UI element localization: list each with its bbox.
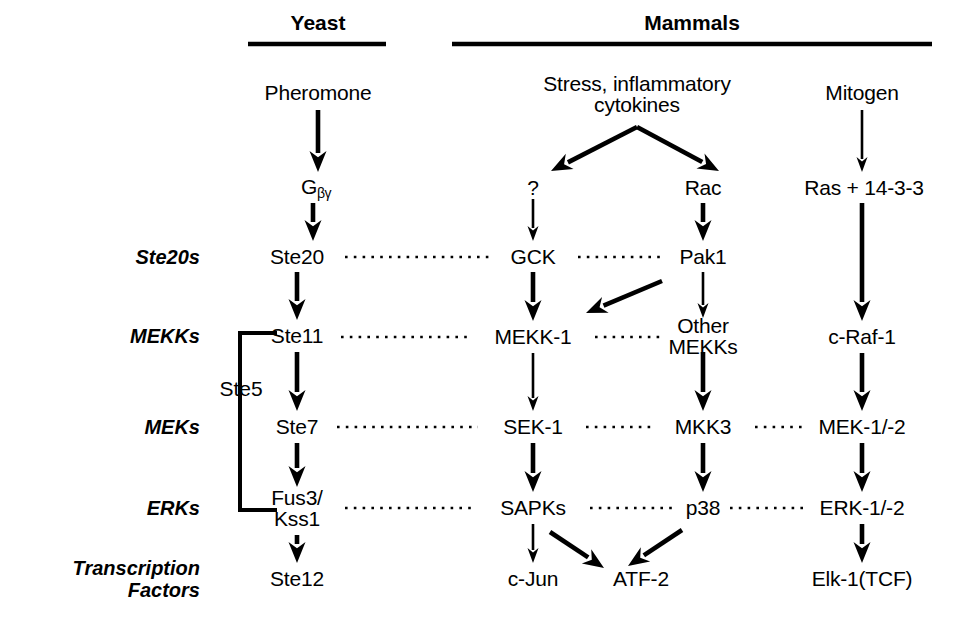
- arrow-head: [525, 300, 542, 321]
- node-other-mekks: OtherMEKKs: [668, 315, 737, 358]
- node-label: c-Jun: [508, 567, 558, 590]
- node-label: MKK3: [675, 415, 731, 438]
- arrow-pheromone-to-gbg: [310, 110, 327, 172]
- arrow-head: [854, 542, 871, 563]
- row-label-mekks: MEKKs: [130, 325, 200, 347]
- node-subscript: βγ: [317, 185, 331, 201]
- node-label: Ste12: [270, 567, 324, 590]
- arrow-head: [289, 542, 306, 563]
- node-label: SAPKs: [500, 496, 566, 519]
- arrow-head: [305, 220, 322, 241]
- row-label-line2: Factors: [128, 579, 200, 601]
- node-line1: Fus3/: [271, 486, 323, 509]
- arrow-erk-1-2-to-elk1-tcf: [854, 524, 871, 563]
- arrow-head: [857, 157, 868, 172]
- node-ste11: Ste11: [271, 325, 323, 347]
- column-heading-mammals: Mammals: [644, 11, 740, 35]
- node-elk1-tcf: Elk-1(TCF): [812, 568, 913, 590]
- node-label: GCK: [511, 245, 556, 268]
- arrow-stress-cytokines-to-rac: [637, 127, 719, 171]
- node-p38: p38: [686, 497, 720, 519]
- arrow-mekk1-to-sek1: [528, 353, 539, 411]
- arrow-head: [310, 151, 327, 172]
- node-gck: GCK: [511, 246, 556, 268]
- node-label: Ste11: [271, 324, 323, 347]
- arrow-head: [854, 471, 871, 492]
- node-label: Pak1: [679, 245, 726, 268]
- arrow-head: [551, 154, 574, 171]
- node-label: ATF-2: [613, 567, 669, 590]
- node-line1: Other: [677, 314, 729, 337]
- node-ste12: Ste12: [270, 568, 324, 590]
- node-pak1: Pak1: [679, 246, 726, 268]
- node-label: ?: [527, 176, 538, 199]
- arrow-other-mekks-to-mkk3: [695, 352, 712, 411]
- node-rac: Rac: [685, 177, 722, 199]
- row-label-transcription-factors: Transcription Factors: [73, 557, 200, 601]
- node-mkk3: MKK3: [675, 416, 731, 438]
- arrow-head: [289, 299, 306, 320]
- node-label: SEK-1: [503, 415, 563, 438]
- arrow-gck-to-mekk1: [525, 272, 542, 321]
- node-c-jun: c-Jun: [508, 568, 558, 590]
- arrow-c-raf-1-to-mek-1-2: [854, 353, 871, 411]
- node-label: p38: [686, 496, 720, 519]
- node-c-raf-1: c-Raf-1: [828, 326, 895, 348]
- arrow-shaft: [568, 127, 637, 162]
- arrow-head: [695, 220, 712, 241]
- arrow-head: [582, 549, 604, 568]
- arrow-head: [628, 547, 650, 566]
- ste5-bracket-label: Ste5: [217, 376, 264, 402]
- arrow-shaft: [644, 530, 682, 555]
- arrow-head: [854, 300, 871, 321]
- node-sek1: SEK-1: [503, 416, 563, 438]
- node-label: G: [301, 175, 317, 198]
- arrow-head: [854, 390, 871, 411]
- node-label: Mitogen: [825, 81, 898, 104]
- node-label: Rac: [685, 176, 722, 199]
- arrow-gbg-to-ste20: [305, 203, 322, 241]
- node-ras-1433: Ras + 14-3-3: [804, 177, 924, 199]
- node-sapks: SAPKs: [500, 497, 566, 519]
- arrow-shaft: [604, 281, 662, 306]
- arrow-stress-cytokines-to-question: [551, 127, 637, 171]
- ste5-bracket: [240, 333, 277, 510]
- arrow-head: [528, 396, 539, 411]
- diagram-vector-layer: [0, 0, 960, 635]
- arrow-fus3kss1-to-ste12: [289, 535, 306, 563]
- arrow-head: [528, 548, 539, 563]
- arrow-shaft: [637, 127, 702, 162]
- node-line2: cytokines: [594, 93, 680, 116]
- node-label: c-Raf-1: [828, 325, 895, 348]
- arrow-ste7-to-fus3kss1: [289, 443, 306, 487]
- arrow-head: [586, 297, 609, 313]
- arrow-head: [696, 154, 719, 171]
- arrow-head: [528, 226, 539, 241]
- node-mekk1: MEKK-1: [495, 326, 572, 348]
- arrow-head: [525, 471, 542, 492]
- arrow-rac-to-pak1: [695, 203, 712, 241]
- node-question: ?: [527, 177, 538, 199]
- arrow-head: [695, 390, 712, 411]
- ste5-bracket-path: [240, 333, 277, 510]
- arrow-head: [289, 390, 306, 411]
- node-erk-1-2: ERK-1/-2: [820, 497, 905, 519]
- arrow-pak1-to-mekk1: [586, 281, 662, 313]
- node-mek-1-2: MEK-1/-2: [818, 416, 905, 438]
- column-heading-yeast: Yeast: [291, 11, 346, 35]
- node-fus3kss1: Fus3/Kss1: [271, 487, 323, 530]
- arrow-question-to-gck: [528, 199, 539, 241]
- node-label: MEK-1/-2: [818, 415, 905, 438]
- node-ste20: Ste20: [270, 246, 324, 268]
- node-pheromone: Pheromone: [265, 82, 372, 104]
- node-ste7: Ste7: [276, 416, 318, 438]
- node-atf2: ATF-2: [613, 568, 669, 590]
- node-label: Ste20: [270, 245, 324, 268]
- row-label-erks: ERKs: [147, 497, 200, 519]
- arrow-pak1-to-other-mekks: [698, 272, 709, 318]
- node-line2: Kss1: [274, 507, 320, 530]
- arrow-mkk3-to-p38: [695, 443, 712, 492]
- arrow-ste20-to-ste11: [289, 272, 306, 320]
- arrow-sapks-to-atf2: [550, 532, 604, 568]
- arrow-head: [695, 471, 712, 492]
